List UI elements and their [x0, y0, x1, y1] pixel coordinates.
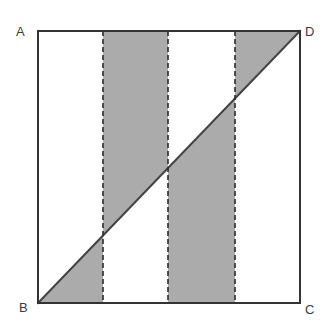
vertex-label-d: D [305, 25, 314, 38]
vertex-label-a: A [16, 25, 25, 38]
vertex-label-c: C [305, 303, 314, 316]
geometry-canvas [0, 0, 335, 328]
vertex-label-b: B [19, 301, 28, 314]
geometry-figure: A D B C [0, 0, 335, 328]
